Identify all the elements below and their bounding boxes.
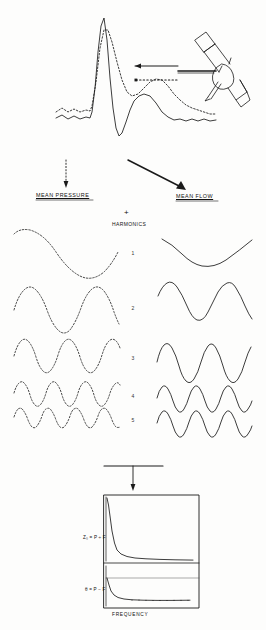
legend-dotted-square (135, 79, 138, 82)
harmonic-number-1: 1 (128, 250, 138, 256)
mean-pressure-label: MEAN PRESSURE (36, 192, 89, 198)
impedance-phase-label: θ = P − F (85, 587, 106, 592)
flow-waveform-trace (56, 18, 216, 136)
flow-harmonic-1 (162, 239, 252, 266)
mean-flow-label: MEAN FLOW (176, 193, 213, 199)
impedance-figure: MEAN PRESSURE MEAN FLOW + HARMONICS 1 2 … (0, 0, 266, 630)
pressure-harmonic-3 (14, 339, 120, 373)
pressure-arrow-head (64, 181, 69, 188)
phase-curve (107, 578, 190, 600)
flow-harmonic-5 (157, 411, 252, 437)
harmonic-number-2: 2 (128, 305, 138, 311)
pressure-waveform-trace (56, 30, 216, 114)
harmonic-number-3: 3 (128, 355, 138, 361)
pressure-harmonic-1 (14, 230, 118, 279)
figure-graphics (0, 0, 266, 630)
pressure-harmonic-2 (14, 287, 119, 333)
frequency-axis-label: FREQUENCY (112, 612, 148, 617)
harmonic-number-4: 4 (128, 393, 138, 399)
legend-solid-arrowhead (135, 64, 141, 69)
impedance-modulus-curve (107, 498, 193, 560)
convergence-arrowhead (131, 484, 136, 491)
impedance-modulus-label: Z₀ = P ÷ F (83, 535, 106, 540)
flow-harmonic-3 (157, 344, 251, 383)
flow-arrow-shaft (128, 160, 183, 188)
catheter-probe-illustration (178, 32, 250, 107)
flow-harmonic-2 (158, 282, 252, 320)
harmonic-number-5: 5 (128, 417, 138, 423)
flow-harmonic-4 (157, 386, 252, 412)
pressure-harmonic-5 (14, 408, 120, 428)
harmonics-label: HARMONICS (112, 221, 146, 227)
pressure-harmonic-4 (14, 382, 120, 407)
plus-sign: + (124, 209, 129, 217)
